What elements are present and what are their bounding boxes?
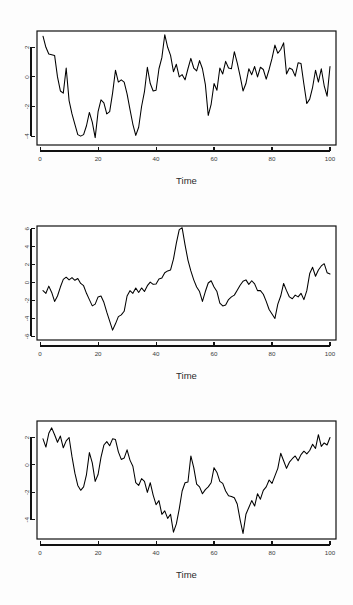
y-tick-label: -2 <box>23 297 30 303</box>
plot-frame <box>37 226 336 340</box>
x-tick-label: 80 <box>269 155 276 162</box>
x-tick-label: 20 <box>95 350 102 357</box>
plot-svg-1: 02040608010020-2-4Time <box>0 10 353 202</box>
plot-svg-2: 0204060801006420-2-4-6Time <box>0 205 353 397</box>
x-tick-label: 100 <box>325 549 336 556</box>
x-tick-label: 20 <box>95 155 102 162</box>
time-series-panel-1: 02040608010020-2-4Time <box>0 10 353 202</box>
y-tick-label: -4 <box>23 315 30 321</box>
x-tick-label: 0 <box>38 549 42 556</box>
x-tick-label: 60 <box>211 155 218 162</box>
y-tick-label: -4 <box>23 516 30 522</box>
y-tick-label: -4 <box>23 133 30 139</box>
x-tick-label: 40 <box>153 155 160 162</box>
time-series-panel-2: 0204060801006420-2-4-6Time <box>0 205 353 397</box>
x-axis-title: Time <box>176 569 197 580</box>
time-series-panel-3: 02040608010020-2-4Time <box>0 400 353 596</box>
x-tick-label: 100 <box>325 155 336 162</box>
x-tick-label: 60 <box>211 549 218 556</box>
y-tick-label: -6 <box>23 333 30 339</box>
x-tick-label: 0 <box>38 350 42 357</box>
x-tick-label: 80 <box>269 549 276 556</box>
y-tick-label: -2 <box>23 103 30 109</box>
plot-frame <box>37 421 336 539</box>
y-tick-label: 4 <box>23 244 30 248</box>
plot-svg-3: 02040608010020-2-4Time <box>0 400 353 596</box>
y-tick-label: -2 <box>23 489 30 495</box>
x-tick-label: 40 <box>153 350 160 357</box>
x-tick-label: 40 <box>153 549 160 556</box>
figure-canvas: 02040608010020-2-4Time 0204060801006420-… <box>0 0 353 605</box>
x-tick-label: 80 <box>269 350 276 357</box>
x-axis-title: Time <box>176 370 197 381</box>
x-tick-label: 20 <box>95 549 102 556</box>
x-tick-label: 0 <box>38 155 42 162</box>
y-tick-label: 0 <box>23 75 30 79</box>
y-tick-label: 0 <box>23 280 30 284</box>
y-tick-label: 2 <box>23 435 30 439</box>
y-tick-label: 0 <box>23 463 30 467</box>
plot-frame <box>37 31 336 145</box>
x-tick-label: 60 <box>211 350 218 357</box>
x-axis-title: Time <box>176 175 197 186</box>
y-tick-label: 2 <box>23 262 30 266</box>
y-tick-label: 6 <box>23 226 30 230</box>
y-tick-label: 2 <box>23 45 30 49</box>
x-tick-label: 100 <box>325 350 336 357</box>
